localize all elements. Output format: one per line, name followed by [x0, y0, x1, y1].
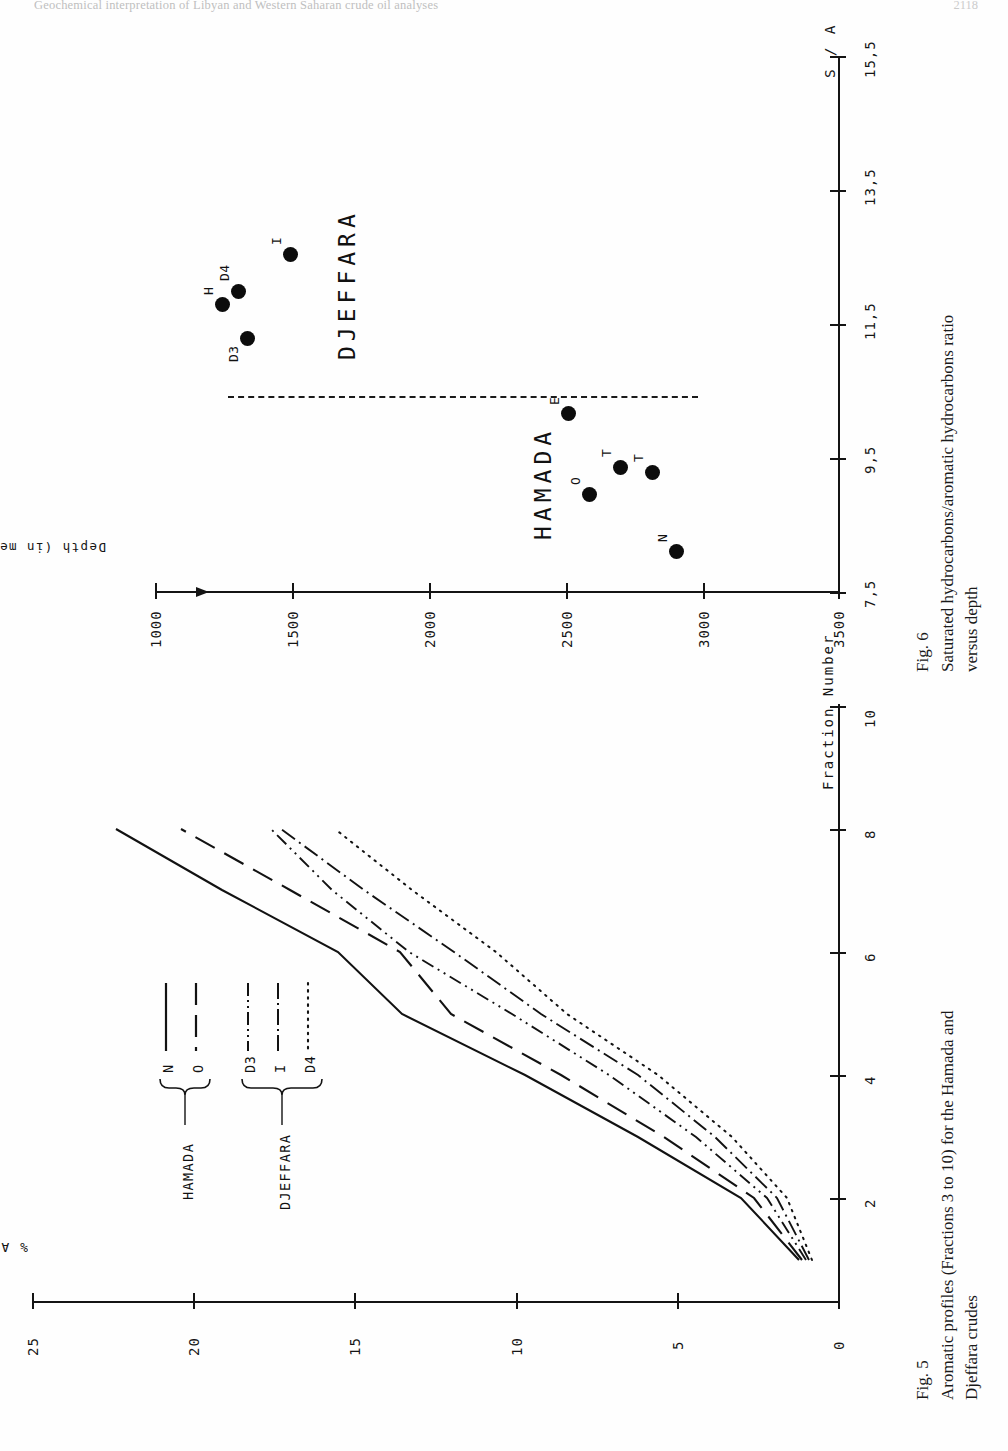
figure-6-caption-label: Fig. 6: [912, 632, 934, 672]
fig6-sa-tick-155: 15,5: [862, 40, 878, 78]
fig6-point-label-t-2: T: [631, 454, 646, 462]
fig5-legend-label-d3: D3: [242, 1056, 258, 1073]
figure-5-label: Fig. 5: [913, 1360, 932, 1400]
fig6-point-label-h: H: [201, 287, 216, 295]
fig6-point-label-t-1: T: [599, 449, 614, 457]
figure-5-caption-line-1: Aromatic profiles (Fractions 3 to 10) fo…: [936, 1011, 959, 1400]
fig6-depth-axis-title: Depth (in metres): [0, 540, 160, 555]
fig5-legend-label-o: O: [190, 1064, 206, 1073]
fig6-region-divider: [228, 396, 698, 398]
fig6-point-label-d4: D4: [217, 264, 232, 281]
fig6-point-i: [283, 247, 298, 262]
fig6-sa-tick-115: 11,5: [862, 302, 878, 340]
fig6-point-label-o: O: [568, 477, 583, 485]
fig6-depth-tick-1000: 1000: [148, 610, 164, 648]
fig6-point-n: [669, 544, 684, 559]
figure-6-caption-line-1: Saturated hydrocarbons/aromatic hydrocar…: [936, 315, 959, 672]
fig6-sa-tick-135: 13,5: [862, 168, 878, 206]
fig6-region-label-djeffara: DJEFFARA: [334, 209, 360, 360]
fig6-point-d4: [231, 284, 246, 299]
fig6-point-label-e: E: [547, 397, 562, 405]
scanned-page: Geochemical interpretation of Libyan and…: [0, 0, 1008, 1451]
fig5-legend-label-i: I: [272, 1064, 288, 1073]
fig6-depth-tick-1500: 1500: [285, 610, 301, 648]
fig6-depth-tick-3000: 3000: [696, 610, 712, 648]
figure-5-caption-label: Fig. 5: [912, 1360, 934, 1400]
fig5-legend-label-n: N: [160, 1064, 176, 1073]
figure-5-caption-line-2: Djeffara crudes: [960, 1295, 983, 1400]
fig6-point-e: [561, 406, 576, 421]
figure-6-caption-line-2: versus depth: [960, 587, 983, 672]
fig6-point-label-n: N: [655, 534, 670, 542]
fig6-point-label-i: I: [269, 237, 284, 245]
fig5-legend-brace-hamada: [160, 1079, 210, 1095]
fig6-sa-tick-95: 9,5: [862, 446, 878, 474]
figure-6-label: Fig. 6: [913, 632, 932, 672]
fig6-point-d3: [240, 331, 255, 346]
fig6-sa-axis-title: S / A: [822, 23, 838, 78]
fig6-depth-tick-2500: 2500: [559, 610, 575, 648]
fig5-legend-brace-djeffara: [242, 1079, 322, 1095]
fig6-depth-tick-2000: 2000: [422, 610, 438, 648]
fig6-sa-tick-75: 7,5: [862, 580, 878, 608]
fig6-point-h: [215, 297, 230, 312]
fig6-region-label-hamada: HAMADA: [530, 427, 556, 540]
fig5-legend-group-hamada: HAMADA: [180, 1143, 196, 1200]
figure-5: 25 20 15 10 5 0 % Aromatics 2 4 6 8 10 F…: [0, 690, 880, 1380]
fig5-legend: N O D3 I D4 HAMADA DJEFFARA: [120, 955, 420, 1195]
fig6-point-t-1: [613, 460, 628, 475]
page-number: 2118: [953, 0, 978, 13]
fig6-point-label-d3: D3: [226, 345, 241, 362]
fig6-point-t-2: [645, 465, 660, 480]
fig5-legend-label-d4: D4: [302, 1056, 318, 1073]
figure-6: 1000 1500 2000 2500 3000 3500 Depth (in …: [0, 0, 880, 690]
fig6-point-o: [582, 487, 597, 502]
fig5-legend-group-djeffara: DJEFFARA: [277, 1134, 293, 1210]
fig6-depth-axis: [155, 591, 840, 593]
fig6-depth-axis-arrow: [196, 587, 209, 597]
